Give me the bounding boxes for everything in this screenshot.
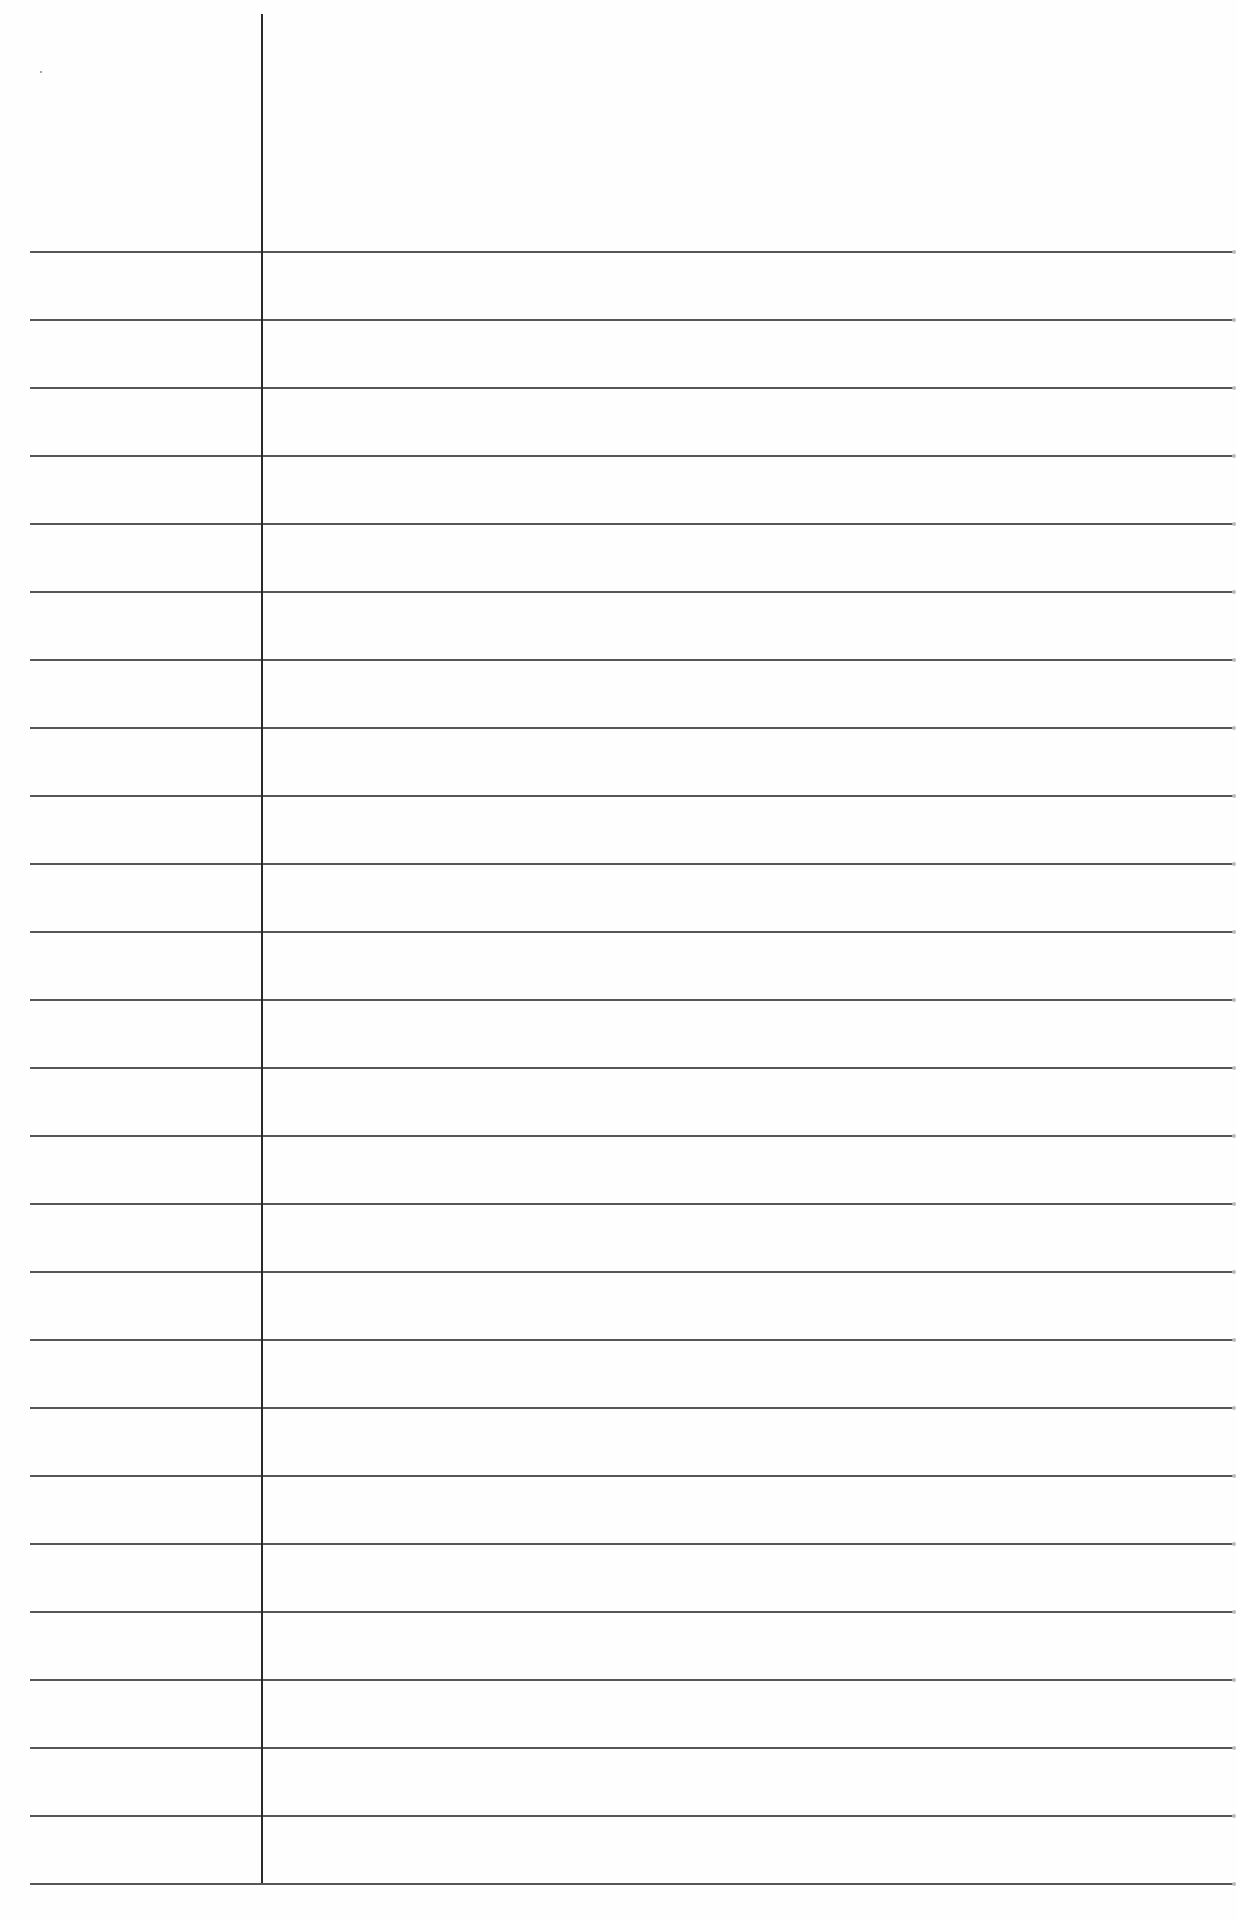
edge-mark bbox=[1232, 1610, 1236, 1614]
ruled-line bbox=[30, 1475, 1233, 1477]
ruled-line bbox=[30, 1747, 1233, 1749]
edge-mark bbox=[1232, 658, 1236, 662]
ruled-line bbox=[30, 727, 1233, 729]
ruled-line bbox=[30, 1543, 1233, 1545]
edge-mark bbox=[1232, 1474, 1236, 1478]
edge-mark bbox=[1232, 998, 1236, 1002]
speck bbox=[40, 71, 42, 73]
edge-mark bbox=[1232, 1746, 1236, 1750]
ruled-line bbox=[30, 795, 1233, 797]
ruled-line bbox=[30, 1203, 1233, 1205]
edge-mark bbox=[1232, 862, 1236, 866]
ruled-line bbox=[30, 1611, 1233, 1613]
edge-mark bbox=[1232, 590, 1236, 594]
edge-mark bbox=[1232, 1406, 1236, 1410]
edge-mark bbox=[1232, 930, 1236, 934]
ruled-line bbox=[30, 1271, 1233, 1273]
edge-mark bbox=[1232, 1678, 1236, 1682]
ruled-line bbox=[30, 1135, 1233, 1137]
edge-mark bbox=[1232, 250, 1236, 254]
ruled-line bbox=[30, 455, 1233, 457]
ruled-line bbox=[30, 1407, 1233, 1409]
ruled-line bbox=[30, 523, 1233, 525]
edge-mark bbox=[1232, 1338, 1236, 1342]
edge-mark bbox=[1232, 794, 1236, 798]
edge-mark bbox=[1232, 522, 1236, 526]
edge-mark bbox=[1232, 1270, 1236, 1274]
edge-mark bbox=[1232, 386, 1236, 390]
ruled-line bbox=[30, 999, 1233, 1001]
edge-mark bbox=[1232, 1814, 1236, 1818]
ruled-line bbox=[30, 863, 1233, 865]
ruled-line bbox=[30, 659, 1233, 661]
ruled-line bbox=[30, 1815, 1233, 1817]
margin-line bbox=[261, 14, 263, 1883]
ruled-line bbox=[30, 1067, 1233, 1069]
edge-mark bbox=[1232, 1202, 1236, 1206]
edge-mark bbox=[1232, 726, 1236, 730]
ruled-line bbox=[30, 591, 1233, 593]
ruled-line bbox=[30, 1679, 1233, 1681]
edge-mark bbox=[1232, 318, 1236, 322]
edge-mark bbox=[1232, 454, 1236, 458]
edge-mark bbox=[1232, 1882, 1236, 1886]
ruled-line bbox=[30, 319, 1233, 321]
edge-mark bbox=[1232, 1066, 1236, 1070]
ruled-line bbox=[30, 931, 1233, 933]
ruled-line bbox=[30, 1883, 1233, 1885]
edge-mark bbox=[1232, 1542, 1236, 1546]
ruled-line bbox=[30, 387, 1233, 389]
ruled-line bbox=[30, 251, 1233, 253]
ruled-line bbox=[30, 1339, 1233, 1341]
edge-mark bbox=[1232, 1134, 1236, 1138]
lined-paper-sheet bbox=[0, 0, 1237, 1920]
